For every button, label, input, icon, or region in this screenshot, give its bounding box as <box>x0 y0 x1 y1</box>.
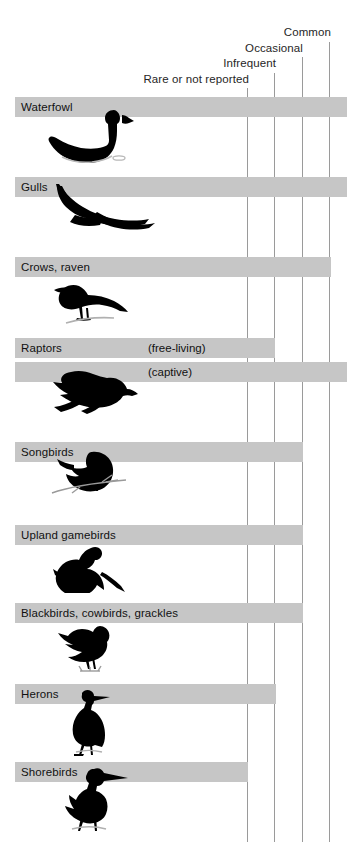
bar-label-upland-gamebirds: Upland gamebirds <box>21 525 116 545</box>
bird-silhouette-waterfowl <box>40 105 140 167</box>
bar-label-raptors: Raptors <box>21 338 62 358</box>
axis-label-common: Common <box>284 26 331 39</box>
bar-label-herons: Herons <box>21 684 59 704</box>
axis-label-infrequent: Infrequent <box>223 57 276 70</box>
bird-frequency-chart: Common Occasional Infrequent Rare or not… <box>0 0 347 859</box>
bird-silhouette-shorebird <box>60 765 130 833</box>
axis-label-occasional: Occasional <box>245 42 303 55</box>
bird-silhouette-songbird <box>50 447 128 497</box>
bar-label-crows-raven: Crows, raven <box>21 257 90 277</box>
gridline-common <box>329 42 330 842</box>
bird-silhouette-gulls <box>45 182 157 238</box>
bar-sublabel-captive: (captive) <box>148 362 192 382</box>
bird-silhouette-blackbird <box>56 622 122 674</box>
axis-label-rare-or-not-reported: Rare or not reported <box>143 73 249 86</box>
bar-label-blackbirds-cowbirds-grackles: Blackbirds, cowbirds, grackles <box>21 603 178 623</box>
bar-label-gulls: Gulls <box>21 177 48 197</box>
bird-silhouette-crow <box>52 281 134 327</box>
gridline-rare <box>247 88 248 842</box>
bar-sublabel-free-living: (free-living) <box>148 338 206 358</box>
bird-silhouette-heron <box>62 684 114 756</box>
bird-silhouette-pheasant <box>50 545 126 593</box>
bird-silhouette-hawk <box>45 368 145 420</box>
